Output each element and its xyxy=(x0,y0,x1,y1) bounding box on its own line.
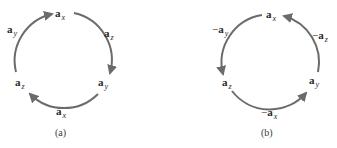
label-b-top: ax xyxy=(266,9,276,20)
diagram-b-arcs xyxy=(222,15,319,109)
label-a-upper-left: ay xyxy=(7,24,17,35)
label-b-bottom: −ax xyxy=(261,107,277,118)
label-a-lower-right: ay xyxy=(98,77,108,88)
caption-a: (a) xyxy=(55,127,66,138)
label-b-upper-left: −ay xyxy=(212,24,228,35)
arc-a-left xyxy=(15,14,52,72)
cross-product-cycle-diagrams xyxy=(0,0,337,148)
label-b-upper-right: −az xyxy=(312,30,328,41)
label-a-top: ax xyxy=(55,8,65,19)
label-a-bottom: ax xyxy=(56,106,66,117)
caption-b: (b) xyxy=(261,127,273,138)
label-b-lower-right: ay xyxy=(309,75,319,86)
diagram-a-arcs xyxy=(15,13,112,108)
label-a-lower-left: az xyxy=(15,77,25,88)
label-b-lower-left: az xyxy=(222,77,232,88)
arc-a-right xyxy=(74,13,112,73)
label-a-upper-right: az xyxy=(104,28,114,39)
arc-b-right xyxy=(284,16,319,72)
